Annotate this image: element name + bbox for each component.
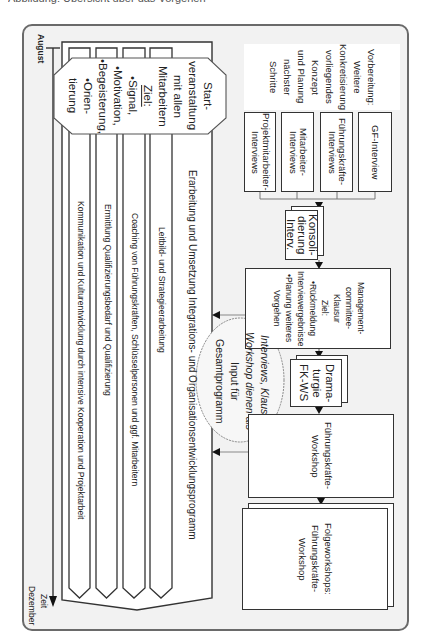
input-note-line-4: Gesamtprogramm [212, 326, 227, 436]
dramaturgy-line-2: turgie [310, 360, 323, 406]
kickoff-goal-1: •Signal, [125, 61, 140, 131]
mgmt-line-2: committee- [342, 270, 354, 348]
prep-line-1: Vorbereitung: [364, 45, 378, 109]
kickoff-goal-5: tierung [65, 61, 80, 131]
mgmt-line-6: Interviewergebnisse [294, 270, 306, 348]
kickoff-goal-4: •Orien- [80, 61, 95, 131]
mgmt-line-1: Management- [354, 270, 366, 348]
timeline-end-label-month: Dezember [26, 584, 37, 628]
kickoff-goal-3: •Begeisterung, [95, 61, 110, 131]
dramaturgy-line-1: Drama- [323, 360, 336, 406]
stream-label-strategy: Leitbild- und Strategieerarbeitung [151, 135, 171, 445]
leadership-ws-line-2: Workshop [308, 415, 321, 497]
program-title: Erarbeitung und Umsetzung Integrations- … [180, 135, 204, 575]
kickoff-goal-2: •Motivation, [110, 61, 125, 131]
mgmt-line-7: •Planung weiteres [282, 270, 294, 348]
followup-line-1: Folgeworkshops: [322, 509, 335, 609]
prep-line-2: Weitere [350, 45, 364, 109]
interview-employees: Mitarbeiter-Interviews [281, 112, 314, 192]
dramaturgy-line-3: FK-WS [297, 360, 310, 406]
mgmt-line-5: •Rückmeldung [306, 270, 318, 348]
input-note-line-3: Input für [227, 326, 242, 436]
leadership-ws-line-1: Führungskräfte- [321, 415, 334, 497]
prep-line-8: Schritte [266, 45, 280, 109]
stream-label-communication: Kommunikation und Kulturentwicklung durc… [70, 140, 90, 580]
mgmt-line-3: Klausur [330, 270, 342, 348]
consolidation-box: Konsoli- dierung Interv. [285, 210, 318, 260]
leadership-workshop-box: Führungskräfte- Workshop [248, 414, 394, 498]
kickoff-title-line-4: Mitarbeitern [155, 61, 170, 131]
followup-line-3: Workshop [296, 509, 309, 609]
stream-label-qualification: Ermittlung Qualifizierungsbedarf und Qua… [97, 140, 117, 460]
consolidation-line-1: Konsoli- [307, 211, 318, 259]
prep-line-3: Konkretisierung [336, 45, 350, 109]
preparation-block: Vorbereitung: Weitere Konkretisierung vo… [244, 44, 400, 110]
interview-leaders: Führungskräfte-Interviews [320, 112, 353, 192]
prep-line-6: und Planung [294, 45, 308, 109]
kickoff-title-line-1: Start- [200, 61, 215, 131]
timeline-end-label-zeit: Zeit [38, 590, 48, 612]
mgmt-line-4: Ziel: [318, 270, 330, 348]
prep-line-5: Konzept [308, 45, 322, 109]
prep-line-7: nächster [280, 45, 294, 109]
followup-workshops-box: Folgeworkshops: Führungskräfte- Workshop [242, 508, 388, 610]
kickoff-event: Start- veranstaltung mit allen Mitarbeit… [56, 60, 224, 132]
prep-line-4: vorliegendes [322, 45, 336, 109]
kickoff-title-line-3: mit allen [170, 61, 185, 131]
interview-project-staff: Projektmitarbeiter-Interviews [244, 112, 276, 192]
kickoff-goal-label: Ziel: [140, 61, 155, 131]
followup-line-2: Führungskräfte- [309, 509, 322, 609]
timeline-start-label: August [33, 30, 47, 68]
dramaturgy-box: Drama- turgie FK-WS [290, 359, 342, 407]
interview-gf: GF-Interview [358, 112, 392, 192]
stream-label-coaching: Coaching von Führungskräften, Schlüsselp… [124, 140, 144, 560]
kickoff-title-line-2: veranstaltung [185, 61, 200, 131]
